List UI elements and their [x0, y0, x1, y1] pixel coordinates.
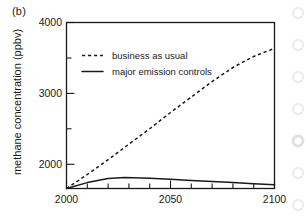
- x-axis-major-ticks: [67, 181, 275, 189]
- scan-artifacts: [293, 8, 303, 210]
- y-tick-label-3000: 3000: [39, 87, 63, 99]
- x-tick-label-2100: 2100: [263, 193, 287, 205]
- y-tick-label-4000: 4000: [39, 16, 63, 28]
- plot-frame: [67, 23, 275, 189]
- chart-svg: 4000 3000 2000 2000 2050 2100 business a…: [0, 0, 306, 220]
- y-axis-major-ticks: [67, 23, 75, 165]
- figure-panel-b: (b) methane concentration (ppbv): [0, 0, 306, 220]
- chart-legend: business as usual major emission control…: [82, 50, 212, 77]
- x-tick-label-2050: 2050: [159, 193, 183, 205]
- legend-label-major-emission-controls: major emission controls: [112, 66, 212, 77]
- y-tick-label-2000: 2000: [39, 158, 63, 170]
- x-tick-label-2000: 2000: [55, 193, 79, 205]
- legend-label-business-as-usual: business as usual: [112, 50, 188, 61]
